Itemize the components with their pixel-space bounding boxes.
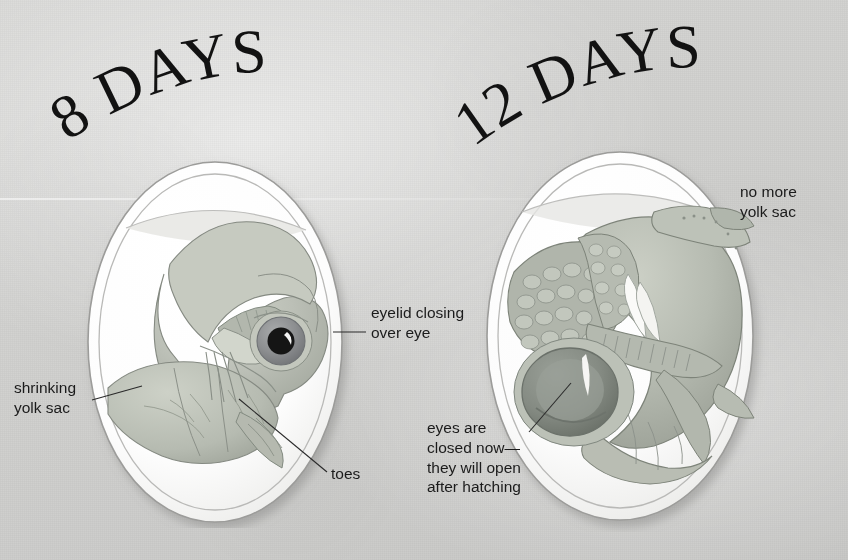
svg-text:12 DAYS: 12 DAYS: [452, 26, 703, 158]
annotation-shrinking-yolk-sac: shrinking yolk sac: [14, 378, 76, 418]
panel-title-12-days-text: 12 DAYS: [452, 26, 703, 158]
panel-title-8-days: 8 DAYS: [40, 28, 430, 158]
embryo-eye-8-days: [250, 311, 312, 371]
svg-text:8 DAYS: 8 DAYS: [40, 28, 269, 152]
egg-illustration-8-days: [78, 156, 358, 528]
book-page: 8 DAYS: [0, 0, 848, 560]
panel-title-12-days: 12 DAYS: [452, 26, 844, 158]
egg-illustration-12-days: [478, 146, 770, 532]
panel-title-8-days-text: 8 DAYS: [40, 28, 269, 152]
annotation-eyes-are-closed-now: eyes are closed now— they will open afte…: [427, 418, 521, 497]
annotation-toes: toes: [331, 464, 360, 484]
annotation-no-more-yolk-sac: no more yolk sac: [740, 182, 797, 222]
annotation-eyelid-closing-over-eye: eyelid closing over eye: [371, 303, 464, 343]
embryo-eye-12-days: [514, 338, 634, 446]
